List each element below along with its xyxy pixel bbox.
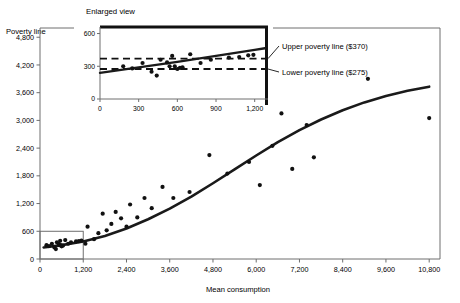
data-point <box>171 196 175 200</box>
upper-poverty-line-label: Upper poverty line ($370) <box>282 42 368 51</box>
y-tick-label: 600 <box>22 227 34 236</box>
x-tick-label: 6,000 <box>247 265 265 274</box>
y-tick-label: 0 <box>30 255 34 264</box>
data-point <box>135 215 139 219</box>
y-tick-label: 3,000 <box>16 116 34 125</box>
inset-data-point <box>168 64 172 68</box>
data-point <box>124 225 128 229</box>
data-point <box>63 238 67 242</box>
data-point <box>85 225 89 229</box>
data-point <box>101 212 105 216</box>
inset-data-point <box>198 61 202 65</box>
inset-data-point <box>251 53 255 57</box>
data-point <box>258 183 262 187</box>
inset-data-point <box>237 55 241 59</box>
data-point <box>305 123 309 127</box>
inset-y-tick-label: 600 <box>84 30 96 37</box>
inset-data-point <box>188 52 192 56</box>
y-tick-label: 3,600 <box>16 88 34 97</box>
data-point <box>114 210 118 214</box>
inset-x-tick-label: 300 <box>133 105 145 112</box>
data-point <box>96 231 100 235</box>
inset-y-tick-label: 300 <box>84 63 96 70</box>
x-tick-label: 2,400 <box>117 265 135 274</box>
y-tick-label: 1,800 <box>16 171 34 180</box>
x-tick-label: 8,400 <box>334 265 352 274</box>
inset-y-tick-label: 0 <box>91 95 95 102</box>
inset-data-point <box>158 58 162 62</box>
x-tick-label: 10,800 <box>418 265 440 274</box>
inset-plot-area: 030060003006009001,200 <box>74 17 273 117</box>
inset-x-tick-label: 1,200 <box>246 105 263 112</box>
data-point <box>128 202 132 206</box>
inset-data-point <box>130 66 134 70</box>
data-point <box>83 242 87 246</box>
data-point <box>54 247 58 251</box>
inset-data-point <box>155 73 159 77</box>
inset-data-point <box>170 54 174 58</box>
inset-title: Enlarged view <box>86 7 135 16</box>
y-tick-label: 4,800 <box>16 33 34 42</box>
y-tick-label: 1,200 <box>16 199 34 208</box>
data-point <box>247 160 251 164</box>
data-point <box>225 171 229 175</box>
y-tick-label: 2,400 <box>16 144 34 153</box>
inset-data-point <box>165 60 169 64</box>
data-point <box>92 237 96 241</box>
inset-data-point <box>149 70 153 74</box>
data-point <box>79 238 83 242</box>
data-point <box>160 185 164 189</box>
data-point <box>279 111 283 115</box>
x-tick-label: 4,800 <box>204 265 222 274</box>
x-tick-label: 9,600 <box>377 265 395 274</box>
chart-figure: Poverty line Mean consumption 06001,2001… <box>0 0 460 303</box>
poverty-line-scatter-chart: Poverty line Mean consumption 06001,2001… <box>0 0 460 303</box>
inset-x-tick-label: 600 <box>172 105 184 112</box>
data-point <box>366 77 370 81</box>
data-point <box>109 222 113 226</box>
inset-data-point <box>227 55 231 59</box>
x-tick-label: 7,200 <box>290 265 308 274</box>
data-point <box>187 190 191 194</box>
data-point <box>207 153 211 157</box>
data-point <box>119 216 123 220</box>
data-point <box>58 239 62 243</box>
data-point <box>69 240 73 244</box>
data-point <box>105 228 109 232</box>
data-point <box>270 144 274 148</box>
data-point <box>61 244 65 248</box>
inset-data-point <box>180 65 184 69</box>
x-tick-label: 3,600 <box>161 265 179 274</box>
data-point <box>312 155 316 159</box>
inset-data-point <box>246 53 250 57</box>
y-tick-label: 4,200 <box>16 61 34 70</box>
data-point <box>427 116 431 120</box>
lower-poverty-line-label: Lower poverty line ($275) <box>282 68 368 77</box>
data-point <box>50 242 54 246</box>
x-axis-title: Mean consumption <box>206 285 270 294</box>
inset-data-point <box>121 64 125 68</box>
data-point <box>150 206 154 210</box>
inset-x-tick-label: 900 <box>210 105 222 112</box>
x-tick-label: 0 <box>38 265 42 274</box>
x-tick-label: 1,200 <box>74 265 92 274</box>
data-point <box>142 196 146 200</box>
inset-x-tick-label: 0 <box>98 105 102 112</box>
inset-data-point <box>140 61 144 65</box>
data-point <box>290 167 294 171</box>
inset-data-point <box>209 58 213 62</box>
